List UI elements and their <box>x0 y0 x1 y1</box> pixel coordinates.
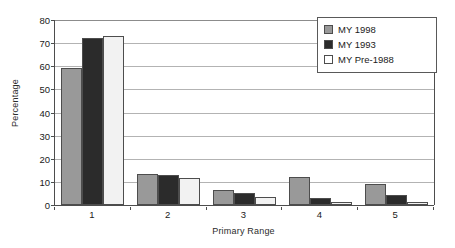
x-tick-mark <box>206 207 207 210</box>
x-axis-tick-labels: 12345 <box>54 207 433 223</box>
y-tick-label: 70 <box>39 38 50 49</box>
bar <box>289 177 310 205</box>
legend-item[interactable]: MY 1998 <box>324 22 430 37</box>
bar-group <box>207 20 283 205</box>
legend-label: MY 1998 <box>338 24 376 35</box>
y-axis-title-text: Percentage <box>10 78 20 126</box>
legend-swatch-icon <box>324 25 333 34</box>
legend-swatch-icon <box>324 55 333 64</box>
bar <box>234 193 255 205</box>
x-tick-mark <box>130 207 131 210</box>
bar <box>103 36 124 205</box>
y-tick-label: 40 <box>39 107 50 118</box>
bar-chart-figure: Percentage 01020304050607080 12345 Prima… <box>0 0 455 248</box>
legend-swatch-icon <box>324 40 333 49</box>
x-axis-title: Primary Range <box>54 226 433 236</box>
bar <box>137 174 158 205</box>
bar <box>310 198 331 205</box>
x-tick-label: 2 <box>130 207 206 223</box>
y-axis-title: Percentage <box>4 0 26 205</box>
y-tick-label: 60 <box>39 61 50 72</box>
bar <box>365 184 386 206</box>
x-tick-mark <box>433 207 434 210</box>
bar <box>61 68 82 205</box>
y-tick-label: 10 <box>39 176 50 187</box>
x-tick-mark <box>357 207 358 210</box>
bar <box>386 195 407 205</box>
x-tick-label: 4 <box>281 207 357 223</box>
bar <box>331 202 352 205</box>
bar <box>213 190 234 205</box>
y-tick-label: 20 <box>39 153 50 164</box>
bar <box>407 202 428 205</box>
y-tick-label: 80 <box>39 15 50 26</box>
bar <box>158 175 179 205</box>
bar <box>179 178 200 205</box>
y-tick-label: 0 <box>45 200 50 211</box>
bar <box>82 38 103 205</box>
y-tick-label: 30 <box>39 130 50 141</box>
bar <box>255 197 276 205</box>
bar-group <box>131 20 207 205</box>
legend-item[interactable]: MY 1993 <box>324 37 430 52</box>
y-tick-mark <box>51 205 55 206</box>
y-tick-label: 50 <box>39 84 50 95</box>
legend-label: MY Pre-1988 <box>338 54 394 65</box>
x-tick-mark <box>281 207 282 210</box>
x-tick-mark <box>54 207 55 210</box>
x-tick-label: 1 <box>54 207 130 223</box>
bar-group <box>55 20 131 205</box>
legend: MY 1998MY 1993MY Pre-1988 <box>317 17 437 73</box>
legend-label: MY 1993 <box>338 39 376 50</box>
x-tick-label: 3 <box>206 207 282 223</box>
x-tick-label: 5 <box>357 207 433 223</box>
legend-item[interactable]: MY Pre-1988 <box>324 52 430 67</box>
